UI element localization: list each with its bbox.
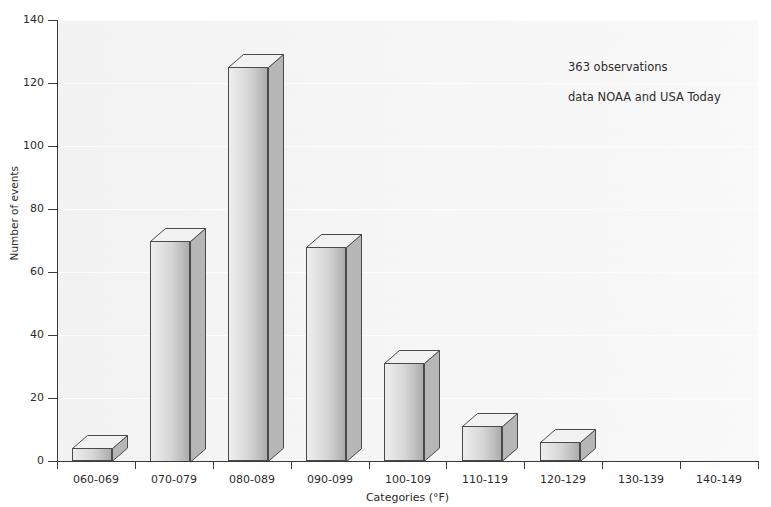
x-tick-label: 100-109 xyxy=(369,474,447,485)
y-axis-title: Number of events xyxy=(9,143,20,283)
y-tick-mark xyxy=(48,335,57,336)
y-tick-label: 20 xyxy=(30,392,44,403)
x-tick-mark xyxy=(213,461,214,469)
bar xyxy=(57,20,758,461)
y-tick-mark xyxy=(48,272,57,273)
bar-chart: 020406080100120140 060-069070-079080-089… xyxy=(0,0,771,507)
y-tick-label: 140 xyxy=(23,14,44,25)
x-tick-label: 140-149 xyxy=(680,474,758,485)
y-axis-line xyxy=(57,20,58,461)
y-tick-label: 0 xyxy=(37,455,44,466)
x-tick-mark xyxy=(57,461,58,469)
x-tick-mark xyxy=(680,461,681,469)
y-tick-mark xyxy=(48,398,57,399)
y-tick-mark xyxy=(48,209,57,210)
annotation-observations: 363 observations xyxy=(568,62,668,74)
plot-area xyxy=(57,20,758,461)
x-tick-mark xyxy=(524,461,525,469)
y-tick-label: 40 xyxy=(30,329,44,340)
y-tick-mark xyxy=(48,83,57,84)
y-tick-mark xyxy=(48,20,57,21)
y-tick-label: 120 xyxy=(23,77,44,88)
x-tick-label: 130-139 xyxy=(602,474,680,485)
x-tick-label: 110-119 xyxy=(446,474,524,485)
x-tick-label: 080-089 xyxy=(213,474,291,485)
x-tick-label: 060-069 xyxy=(57,474,135,485)
x-axis-line xyxy=(57,461,758,462)
x-tick-label: 090-099 xyxy=(291,474,369,485)
y-tick-label: 100 xyxy=(23,140,44,151)
bar-front-face xyxy=(540,442,580,461)
x-tick-label: 070-079 xyxy=(135,474,213,485)
x-tick-mark xyxy=(446,461,447,469)
x-tick-mark xyxy=(602,461,603,469)
x-axis-title: Categories (°F) xyxy=(57,492,758,503)
x-tick-label: 120-129 xyxy=(524,474,602,485)
y-tick-label: 80 xyxy=(30,203,44,214)
y-tick-mark xyxy=(48,146,57,147)
x-tick-mark xyxy=(369,461,370,469)
annotation-source: data NOAA and USA Today xyxy=(568,92,721,104)
x-tick-mark xyxy=(291,461,292,469)
x-tick-mark xyxy=(135,461,136,469)
x-tick-mark xyxy=(758,461,759,469)
y-tick-label: 60 xyxy=(30,266,44,277)
y-tick-mark xyxy=(48,461,57,462)
